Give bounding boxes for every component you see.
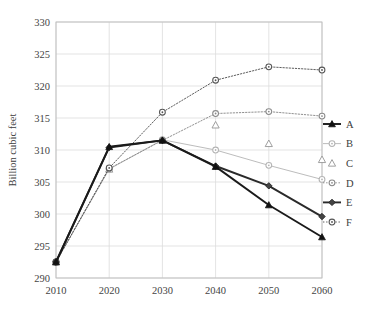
data-point-marker bbox=[329, 219, 335, 225]
y-tick-label: 325 bbox=[34, 49, 50, 60]
data-point-marker bbox=[213, 77, 219, 83]
y-axis-title: Billion cubic feet bbox=[7, 113, 18, 186]
x-tick-label: 2060 bbox=[312, 285, 333, 296]
data-point-marker bbox=[319, 113, 325, 119]
y-tick-label: 320 bbox=[34, 81, 50, 92]
data-point-marker bbox=[213, 147, 219, 153]
circle-center-dot-icon bbox=[215, 149, 217, 151]
legend-item-A[interactable]: A bbox=[323, 119, 354, 130]
circle-center-dot-icon bbox=[331, 221, 333, 223]
data-point-marker bbox=[328, 160, 335, 167]
y-tick-label: 300 bbox=[34, 209, 50, 220]
circle-center-dot-icon bbox=[331, 143, 333, 145]
circle-center-dot-icon bbox=[268, 111, 270, 113]
x-tick-label: 2020 bbox=[99, 285, 120, 296]
legend: ABCDEF bbox=[323, 119, 354, 228]
circle-center-dot-icon bbox=[268, 66, 270, 68]
data-point-marker bbox=[213, 111, 219, 117]
legend-label-E: E bbox=[346, 197, 352, 208]
y-tick-label: 290 bbox=[34, 273, 50, 284]
y-tick-label: 330 bbox=[34, 17, 50, 28]
data-point-marker bbox=[106, 165, 112, 171]
y-tick-label: 305 bbox=[34, 177, 50, 188]
legend-item-F[interactable]: F bbox=[323, 217, 352, 228]
data-point-marker bbox=[329, 199, 335, 205]
circle-center-dot-icon bbox=[321, 69, 323, 71]
legend-label-A: A bbox=[346, 119, 354, 130]
data-point-marker bbox=[319, 67, 325, 73]
x-tick-label: 2040 bbox=[205, 285, 226, 296]
legend-label-C: C bbox=[346, 158, 353, 169]
circle-center-dot-icon bbox=[108, 167, 110, 169]
triangle-open-icon bbox=[328, 160, 335, 167]
data-point-marker bbox=[266, 162, 272, 168]
data-point-marker bbox=[329, 180, 335, 186]
data-point-marker bbox=[266, 109, 272, 115]
data-point-marker bbox=[266, 64, 272, 70]
data-point-marker bbox=[329, 141, 335, 147]
line-chart: 2902953003053103153203253302010202020302… bbox=[0, 0, 378, 319]
legend-label-D: D bbox=[346, 178, 354, 189]
y-tick-label: 310 bbox=[34, 145, 50, 156]
circle-center-dot-icon bbox=[215, 79, 217, 81]
circle-center-dot-icon bbox=[162, 111, 164, 113]
data-point-marker bbox=[160, 109, 166, 115]
circle-center-dot-icon bbox=[321, 179, 323, 181]
chart-container: 2902953003053103153203253302010202020302… bbox=[0, 0, 378, 319]
circle-center-dot-icon bbox=[331, 182, 333, 184]
x-tick-label: 2010 bbox=[46, 285, 67, 296]
x-tick-label: 2030 bbox=[152, 285, 173, 296]
circle-center-dot-icon bbox=[321, 115, 323, 117]
legend-item-B[interactable]: B bbox=[323, 138, 353, 149]
data-point-marker bbox=[319, 177, 325, 183]
legend-label-F: F bbox=[346, 217, 352, 228]
legend-item-E[interactable]: E bbox=[323, 197, 352, 208]
diamond-filled-icon bbox=[329, 199, 335, 205]
circle-center-dot-icon bbox=[268, 164, 270, 166]
legend-item-D[interactable]: D bbox=[323, 178, 354, 189]
legend-item-C[interactable]: C bbox=[328, 158, 353, 169]
circle-center-dot-icon bbox=[215, 113, 217, 115]
x-tick-label: 2050 bbox=[258, 285, 279, 296]
legend-label-B: B bbox=[346, 138, 353, 149]
y-tick-label: 315 bbox=[34, 113, 50, 124]
y-tick-label: 295 bbox=[34, 241, 50, 252]
